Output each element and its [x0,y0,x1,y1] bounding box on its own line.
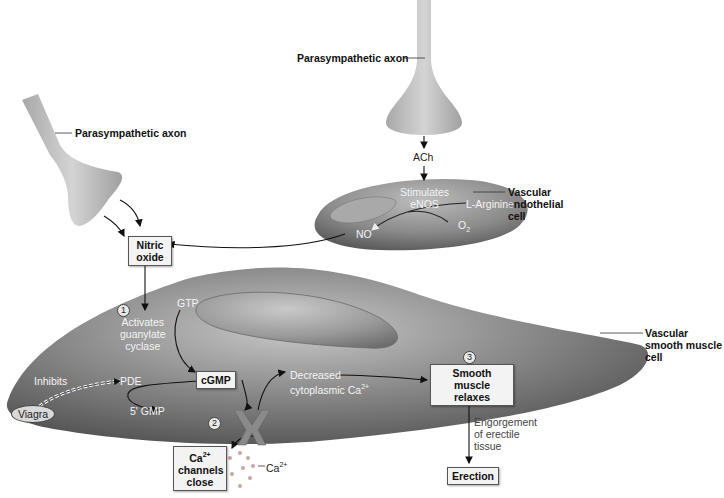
left-axon [22,94,122,226]
five-gmp-label: 5' GMP [130,405,165,417]
no-label: NO [356,228,372,240]
top-axon-label: Parasympathetic axon [297,52,408,64]
step-2-badge: 2 [208,417,221,430]
endothelial-cell-label: Vascular endothelial cell [508,186,563,222]
cgmp-box: cGMP [196,371,236,389]
smooth-muscle-cell-label: Vascular smooth muscle cell [645,327,722,363]
viagra-oval: Viagra [11,405,55,423]
inhibits-label: Inhibits [34,375,67,387]
ach-label: ACh [413,151,433,163]
nitric-oxide-box: Nitric oxide [128,236,172,266]
diagram-canvas [0,0,724,498]
calcium-channels-close-box: Ca2+ channels close [173,446,227,491]
erection-box: Erection [447,467,499,485]
activates-guanylate-cyclase-label: Activates guanylate cyclase [120,316,166,352]
step-3-badge: 3 [463,351,476,364]
gtp-label: GTP [177,297,199,309]
top-axon [386,0,462,135]
engorgement-label: Engorgement of erectile tissue [474,416,537,452]
decreased-calcium-label: Decreased cytoplasmic Ca2+ [290,369,369,396]
calcium-ions [228,451,255,488]
pde-label: PDE [120,375,142,387]
oxygen-label: O2 [458,219,470,236]
stimulates-enos-label: Stimulates eNOS [400,186,449,210]
smooth-muscle-cell [7,268,648,445]
smooth-muscle-relaxes-box: Smooth muscle relaxes [430,364,514,406]
left-axon-label: Parasympathetic axon [75,127,186,139]
l-arginine-label: L-Arginine [466,198,514,210]
calcium-ion-label: Ca2+ [266,459,287,474]
